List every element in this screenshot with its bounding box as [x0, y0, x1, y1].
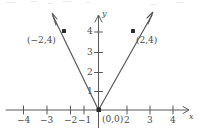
y-tick-label-3: 3: [87, 48, 93, 57]
point-marker-left: [62, 29, 66, 33]
right-point-label: (2,4): [136, 36, 157, 45]
x-tick-label-4: 4: [170, 116, 176, 125]
x-tick-label-2: 2: [124, 116, 130, 125]
x-tick-label--4: −4: [17, 116, 30, 125]
left-point-label: (−2,4): [27, 36, 56, 45]
x-tick-label--1: −1: [78, 116, 91, 125]
x-tick-label--3: −3: [40, 116, 53, 125]
y-axis-label: y: [102, 10, 107, 18]
point-marker-origin: [97, 108, 102, 113]
y-tick-label-4: 4: [87, 27, 93, 36]
plot-canvas: [0, 0, 200, 128]
x-tick-label--2: −2: [64, 116, 77, 125]
x-axis-label: x: [189, 113, 194, 121]
graph-figure: y x −4 −3 −2 −1 2 3 4 1 2 3 4 (−2,4) (2,…: [0, 0, 200, 128]
x-tick-label-3: 3: [147, 116, 153, 125]
right-branch-line: [99, 15, 153, 110]
origin-point-label: (0,0): [102, 115, 123, 124]
point-marker-right: [131, 29, 135, 33]
y-tick-label-2: 2: [87, 68, 93, 77]
y-tick-label-1: 1: [87, 87, 93, 96]
